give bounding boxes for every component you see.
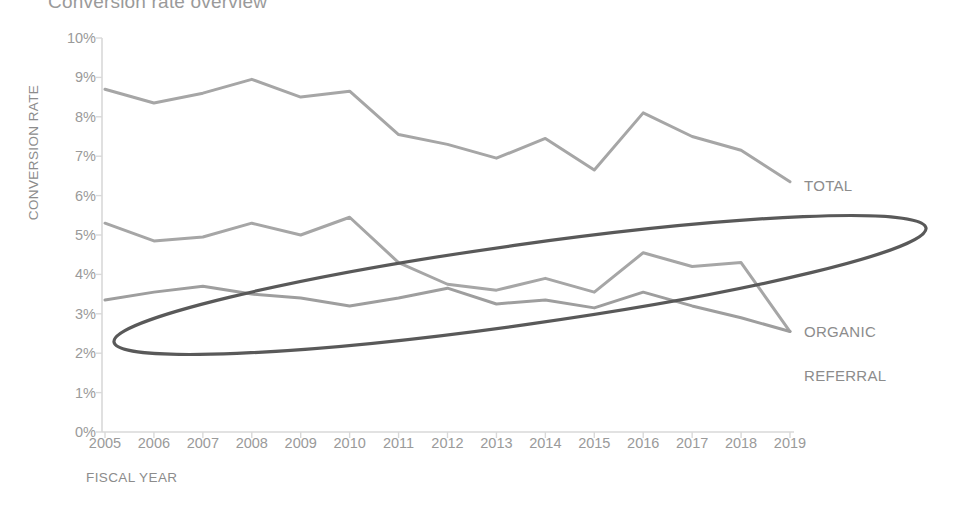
plot-area	[0, 0, 958, 521]
series-line-total	[105, 79, 790, 181]
series-line-referral	[105, 286, 790, 331]
series-line-organic	[105, 217, 790, 331]
chart-container: Conversion rate overview CONVERSION RATE…	[0, 0, 958, 521]
